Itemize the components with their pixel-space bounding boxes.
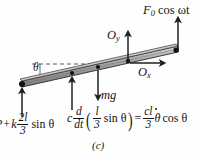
angle-theta-label: θ (33, 62, 39, 74)
left-paren: ( (86, 112, 91, 129)
damper-force-equation: cddt(l3sin θ)=cl3θcos θ (67, 106, 187, 130)
theta-dot: θ (155, 112, 161, 124)
free-body-diagram-figure: F0 cos ωt Oy Ox θ mg P+k2l3sin θ cddt(l3… (0, 0, 198, 160)
damper-attachment-dot (70, 71, 74, 75)
pivot-dot (19, 81, 25, 87)
figure-caption: (c) (92, 140, 104, 151)
reaction-x-label: Ox (138, 66, 151, 80)
applied-force-label: F0 cos ωt (143, 4, 190, 18)
right-paren: ) (128, 112, 133, 129)
reaction-y-label: Oy (107, 29, 120, 43)
spring-force-equation: P+k2l3sin θ (0, 112, 54, 136)
weight-label: mg (101, 89, 116, 102)
center-of-mass-dot (96, 65, 100, 69)
